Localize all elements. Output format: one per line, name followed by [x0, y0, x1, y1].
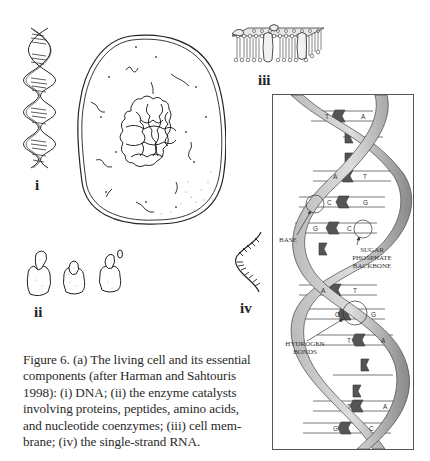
base-left-5: C	[327, 199, 332, 206]
dna-helix-icon	[22, 26, 56, 174]
base-left-1: T	[325, 113, 329, 120]
caption-line: involving proteins, peptides, amino acid…	[23, 401, 263, 417]
base-right-13: C	[369, 425, 374, 432]
figure-caption: Figure 6. (a) The living cell and its es…	[23, 352, 263, 450]
base-right-10: A	[381, 337, 385, 344]
caption-line: Figure 6. (a) The living cell and its es…	[23, 352, 263, 368]
base-left-6: G	[313, 225, 318, 232]
base-left-13: G	[333, 425, 338, 432]
living-cell-icon	[76, 32, 226, 228]
cell-illustration	[76, 32, 226, 228]
cell-membrane-illustration	[230, 22, 326, 68]
base-left-8: A	[321, 287, 325, 294]
membrane-icon	[230, 22, 326, 68]
base-right-9: G	[371, 311, 376, 318]
caption-line: components (after Harman and Sahtouris	[23, 368, 263, 384]
base-right-4: T	[363, 173, 367, 180]
caption-line: brane; (iv) the single-strand RNA.	[23, 434, 263, 450]
base-right-8: T	[353, 287, 357, 294]
base-right-12: A	[383, 403, 387, 410]
base-right-1: A	[361, 113, 365, 120]
dna-illustration	[22, 26, 56, 174]
label-ii: ii	[34, 304, 42, 321]
base-left-9: C	[335, 311, 340, 318]
enzyme-illustration	[24, 244, 134, 300]
base-right-6: C	[347, 225, 352, 232]
double-helix-detail-icon	[273, 95, 413, 449]
base-left-4: A	[333, 173, 337, 180]
caption-line: and nucleotide coenzymes; (iii) cell mem…	[23, 418, 263, 434]
label-iii: iii	[258, 72, 271, 89]
base-left-10: T	[347, 337, 351, 344]
rna-strand-icon	[233, 232, 267, 294]
dna-detail-panel: T A A T C G G C A T C G T A T A G C BASE…	[272, 94, 414, 450]
label-i: i	[35, 177, 39, 194]
base-left-12: T	[347, 403, 351, 410]
enzyme-catalyst-icon	[24, 244, 134, 300]
annotation-base: BASE	[279, 236, 297, 244]
annotation-sugar-phosphate-backbone: SUGAR PHOSPHATE BACKBONE	[335, 246, 409, 270]
rna-illustration	[233, 232, 267, 294]
caption-line: 1998): (i) DNA; (ii) the enzyme catalyst…	[23, 385, 263, 401]
label-iv: iv	[240, 300, 252, 317]
base-right-5: G	[363, 199, 368, 206]
annotation-hydrogen-bonds: HYDROGEN BONDS	[275, 340, 335, 356]
